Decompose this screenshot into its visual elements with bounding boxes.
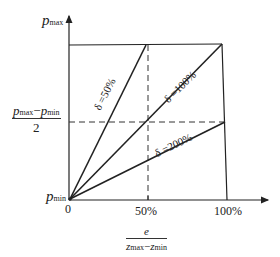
x-axis-label: e zmax−zmin (126, 226, 167, 252)
tick-100-label: 100% (214, 205, 242, 217)
origin-label: 0 (65, 203, 71, 215)
y-axis-max-label: pmax (42, 13, 63, 28)
origin-point (68, 197, 72, 201)
tick-50-label: 50% (135, 205, 157, 217)
y-axis-min-label: pmin (46, 189, 66, 204)
y-axis-mid-label: pmax−pmin 2 (12, 104, 61, 134)
